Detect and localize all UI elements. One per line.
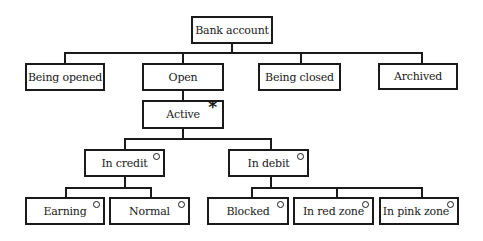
connector bbox=[65, 187, 152, 189]
state-label: Bank account bbox=[195, 24, 269, 37]
asterisk-icon: * bbox=[208, 99, 217, 116]
state-active: Active * bbox=[142, 100, 224, 129]
state-label: Normal bbox=[129, 205, 170, 218]
state-label: In debit bbox=[248, 157, 290, 170]
state-label: Earning bbox=[43, 205, 86, 218]
state-bank-account: Bank account bbox=[191, 16, 273, 44]
state-label: In credit bbox=[101, 157, 147, 170]
state-open: Open bbox=[142, 63, 224, 91]
state-being-closed: Being closed bbox=[258, 63, 341, 91]
state-label: Archived bbox=[394, 70, 442, 83]
state-label: In pink zone bbox=[383, 205, 449, 218]
state-label: Being closed bbox=[265, 71, 334, 84]
state-archived: Archived bbox=[378, 63, 458, 90]
circle-icon bbox=[447, 201, 454, 208]
state-earning: Earning bbox=[25, 197, 105, 225]
state-label: In red zone bbox=[303, 205, 364, 218]
circle-icon bbox=[93, 201, 100, 208]
state-label: Active bbox=[166, 108, 200, 121]
state-label: Open bbox=[169, 71, 198, 84]
state-normal: Normal bbox=[109, 197, 190, 225]
connector bbox=[64, 52, 423, 54]
circle-icon bbox=[178, 201, 185, 208]
circle-icon bbox=[277, 201, 284, 208]
circle-icon bbox=[153, 153, 160, 160]
state-being-opened: Being opened bbox=[25, 63, 105, 91]
circle-icon bbox=[362, 201, 369, 208]
state-in-red-zone: In red zone bbox=[293, 197, 374, 225]
state-blocked: Blocked bbox=[207, 197, 289, 225]
state-label: Blocked bbox=[226, 205, 269, 218]
circle-icon bbox=[297, 153, 304, 160]
state-in-pink-zone: In pink zone bbox=[379, 197, 459, 225]
state-label: Being opened bbox=[28, 71, 102, 84]
state-in-credit: In credit bbox=[84, 149, 165, 177]
connector bbox=[124, 138, 272, 140]
state-in-debit: In debit bbox=[228, 149, 309, 177]
